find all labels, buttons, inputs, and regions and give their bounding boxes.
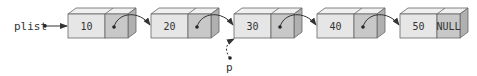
head-pointer-plist: plist (14, 20, 67, 33)
node-value: 40 (329, 21, 341, 32)
list-node: 10 (68, 8, 150, 38)
node-top-face (317, 8, 385, 14)
node-next-cell (105, 14, 128, 38)
node-value: 10 (80, 21, 92, 32)
head-pointer-label: plist (14, 20, 47, 33)
node-null: NULL (436, 21, 460, 32)
node-value: 20 (163, 21, 175, 32)
node-next-cell (188, 14, 211, 38)
list-node: 40 (317, 8, 399, 38)
node-next-cell (271, 14, 294, 38)
node-top-face (400, 8, 468, 14)
linked-list-diagram: plist 1020304050NULL p (0, 0, 477, 76)
cursor-pointer-p: p (226, 39, 234, 74)
cursor-pointer-label: p (226, 61, 233, 74)
node-value: 30 (246, 21, 258, 32)
node-next-cell (354, 14, 377, 38)
cursor-arrow (227, 39, 234, 58)
node-top-face (234, 8, 302, 14)
node-top-face (68, 8, 136, 14)
list-node: 50NULL (400, 8, 468, 38)
list-node: 30 (234, 8, 316, 38)
list-node: 20 (151, 8, 233, 38)
node-value: 50 (412, 21, 424, 32)
node-top-face (151, 8, 219, 14)
